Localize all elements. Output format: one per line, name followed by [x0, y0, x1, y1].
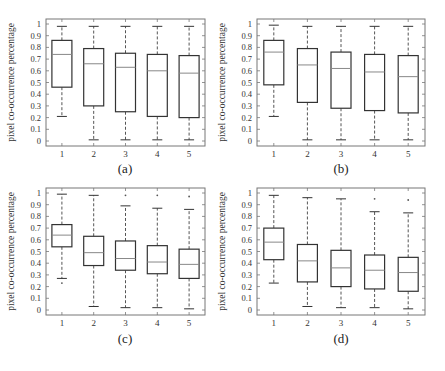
- chart-panel-d: 00.10.20.30.40.50.60.70.80.9112345number…: [211, 169, 445, 354]
- box-iqr: [179, 56, 199, 118]
- outlier-point: [61, 282, 63, 284]
- y-tick-label: 0.8: [241, 211, 252, 221]
- x-tick-label: 2: [91, 318, 96, 327]
- caption-d: (d): [321, 331, 361, 347]
- y-tick-label: 0.9: [30, 31, 41, 41]
- y-tick-label: 1: [248, 188, 252, 198]
- outlier-point: [374, 198, 376, 200]
- y-tick-label: 0.5: [30, 247, 41, 257]
- y-tick-label: 0.7: [241, 223, 252, 233]
- x-tick-label: 1: [272, 149, 277, 158]
- box-3: [116, 194, 136, 307]
- boxplot-chart-d: 00.10.20.30.40.50.60.70.80.9112345number…: [211, 169, 445, 327]
- box-4: [365, 26, 385, 139]
- x-tick-label: 4: [372, 318, 377, 327]
- y-tick-label: 0.1: [30, 124, 41, 134]
- y-axis-label: pixel co-occurrence percentage: [6, 23, 16, 142]
- x-tick-label: 2: [305, 149, 310, 158]
- y-tick-label: 0.3: [30, 270, 41, 280]
- y-tick-label: 0.5: [241, 247, 252, 257]
- y-tick-label: 0: [37, 305, 41, 315]
- box-5: [398, 199, 418, 309]
- y-tick-label: 1: [37, 19, 41, 29]
- y-tick-label: 0: [248, 305, 252, 315]
- box-iqr: [398, 257, 418, 291]
- x-tick-label: 3: [123, 318, 128, 327]
- box-iqr: [297, 244, 317, 281]
- box-3: [331, 26, 351, 139]
- y-axis-label: pixel co-occurrence percentage: [6, 192, 16, 311]
- y-tick-label: 0: [248, 136, 252, 146]
- box-iqr: [147, 246, 167, 274]
- chart-panel-a: 00.10.20.30.40.50.60.70.80.9112345number…: [0, 0, 222, 185]
- box-iqr: [179, 249, 199, 278]
- y-tick-label: 0.9: [30, 200, 41, 210]
- x-tick-label: 5: [406, 149, 411, 158]
- chart-panel-b: 00.10.20.30.40.50.60.70.80.9112345number…: [211, 0, 445, 185]
- y-tick-label: 0.1: [241, 293, 252, 303]
- y-tick-label: 0.4: [241, 258, 252, 268]
- box-4: [147, 26, 167, 139]
- y-tick-label: 1: [37, 188, 41, 198]
- caption-b: (b): [321, 161, 361, 177]
- y-tick-label: 0.8: [30, 211, 41, 221]
- y-tick-label: 0.6: [30, 66, 41, 76]
- boxplot-chart-c: 00.10.20.30.40.50.60.70.80.9112345number…: [0, 169, 222, 327]
- box-iqr: [116, 53, 136, 112]
- box-iqr: [331, 52, 351, 108]
- box-2: [297, 26, 317, 139]
- y-tick-label: 0.9: [241, 31, 252, 41]
- box-iqr: [52, 40, 72, 87]
- box-iqr: [84, 49, 104, 106]
- x-tick-label: 4: [372, 149, 377, 158]
- y-tick-label: 0.8: [241, 42, 252, 52]
- chart-panel-c: 00.10.20.30.40.50.60.70.80.9112345number…: [0, 169, 222, 354]
- y-tick-label: 0.1: [30, 293, 41, 303]
- y-tick-label: 0.2: [30, 282, 41, 292]
- x-tick-label: 5: [406, 318, 411, 327]
- box-iqr: [398, 56, 418, 113]
- box-1: [52, 194, 72, 284]
- y-tick-label: 0.6: [241, 235, 252, 245]
- y-tick-label: 0.9: [241, 200, 252, 210]
- y-axis-label: pixel co-occurrence percentage: [217, 23, 227, 142]
- x-tick-label: 2: [305, 318, 310, 327]
- y-tick-label: 0.4: [30, 258, 41, 268]
- x-tick-label: 1: [272, 318, 277, 327]
- y-tick-label: 0.5: [30, 78, 41, 88]
- box-iqr: [147, 54, 167, 116]
- x-tick-label: 5: [187, 318, 192, 327]
- y-tick-label: 0.5: [241, 78, 252, 88]
- box-2: [84, 26, 104, 139]
- y-tick-label: 0.3: [241, 101, 252, 111]
- y-tick-label: 0: [37, 136, 41, 146]
- x-tick-label: 1: [60, 318, 65, 327]
- box-1: [264, 195, 284, 283]
- box-iqr: [84, 236, 104, 265]
- y-tick-label: 0.3: [30, 101, 41, 111]
- y-tick-label: 0.4: [30, 89, 41, 99]
- outlier-point: [156, 194, 158, 196]
- boxplot-chart-a: 00.10.20.30.40.50.60.70.80.9112345number…: [0, 0, 222, 158]
- x-tick-label: 3: [123, 149, 128, 158]
- boxplot-chart-b: 00.10.20.30.40.50.60.70.80.9112345number…: [211, 0, 445, 158]
- box-1: [52, 26, 72, 116]
- box-5: [398, 26, 418, 139]
- outlier-point: [125, 194, 127, 196]
- x-tick-label: 5: [187, 149, 192, 158]
- y-tick-label: 0.8: [30, 42, 41, 52]
- box-iqr: [264, 40, 284, 84]
- y-tick-label: 0.6: [30, 235, 41, 245]
- box-2: [84, 195, 104, 306]
- x-tick-label: 3: [339, 318, 344, 327]
- y-tick-label: 0.2: [241, 282, 252, 292]
- x-tick-label: 1: [60, 149, 65, 158]
- y-tick-label: 0.1: [241, 124, 252, 134]
- caption-c: (c): [105, 331, 145, 347]
- caption-a: (a): [105, 161, 145, 177]
- box-5: [179, 26, 199, 139]
- x-tick-label: 2: [91, 149, 96, 158]
- box-1: [264, 25, 284, 116]
- y-tick-label: 0.6: [241, 66, 252, 76]
- box-2: [297, 198, 317, 307]
